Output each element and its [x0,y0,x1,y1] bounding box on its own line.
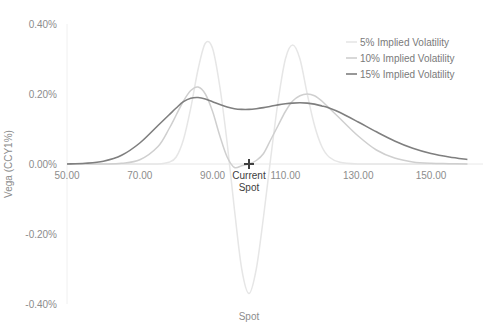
annotation-label-line1: Current [232,170,266,181]
y-tick-label: -0.20% [25,229,57,240]
series-line-3 [67,97,467,164]
x-tick-label: 90.00 [200,170,225,181]
annotation-label-line2: Spot [239,182,260,193]
x-tick-label: 110.00 [270,170,300,181]
vega-chart: 0.40%0.20%0.00%-0.20%-0.40% 50.0070.0090… [0,0,483,332]
x-tick-label: 130.00 [343,170,374,181]
x-tick-label: 150.00 [416,170,447,181]
legend-label: 15% Implied Volatility [360,69,455,80]
legend: 5% Implied Volatility10% Implied Volatil… [346,37,455,80]
x-tick-label: 70.00 [127,170,152,181]
series-line-2 [67,87,467,168]
y-tick-label: -0.40% [25,299,57,310]
y-tick-label: 0.20% [29,89,57,100]
y-axis-ticks: 0.40%0.20%0.00%-0.20%-0.40% [25,19,57,310]
legend-label: 10% Implied Volatility [360,53,455,64]
y-tick-label: 0.40% [29,19,57,30]
y-axis-title: Vega (CCY1%) [3,130,14,198]
y-tick-label: 0.00% [29,159,57,170]
x-axis-title: Spot [239,311,260,322]
x-tick-label: 50.00 [54,170,79,181]
legend-label: 5% Implied Volatility [360,37,449,48]
plus-marker-icon [244,159,254,169]
